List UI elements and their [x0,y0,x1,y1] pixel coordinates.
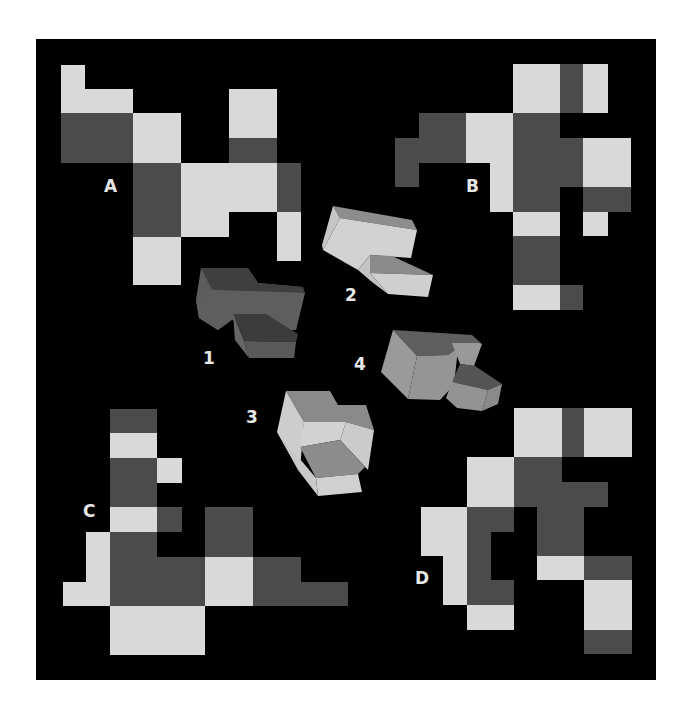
solid-label: 2 [345,287,357,304]
solid-4 [381,330,502,411]
solid-3 [277,391,374,496]
solid-label: 1 [203,350,215,367]
solid-face [201,268,305,293]
solid-1 [196,268,305,358]
solid-label: 3 [246,409,258,426]
solid-face [452,343,482,366]
solid-label: 4 [354,356,366,373]
solid-2 [322,206,433,297]
solid-face [244,341,296,358]
solid-face [370,255,433,275]
solids-svg [0,0,693,719]
